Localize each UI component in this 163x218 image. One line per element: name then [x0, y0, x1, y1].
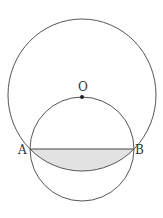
point-o-dot: [80, 95, 84, 99]
shaded-segment: [30, 149, 134, 171]
label-b: B: [135, 143, 144, 157]
label-o: O: [78, 80, 88, 94]
geometry-figure: O A B: [0, 0, 163, 218]
label-a: A: [17, 143, 27, 157]
